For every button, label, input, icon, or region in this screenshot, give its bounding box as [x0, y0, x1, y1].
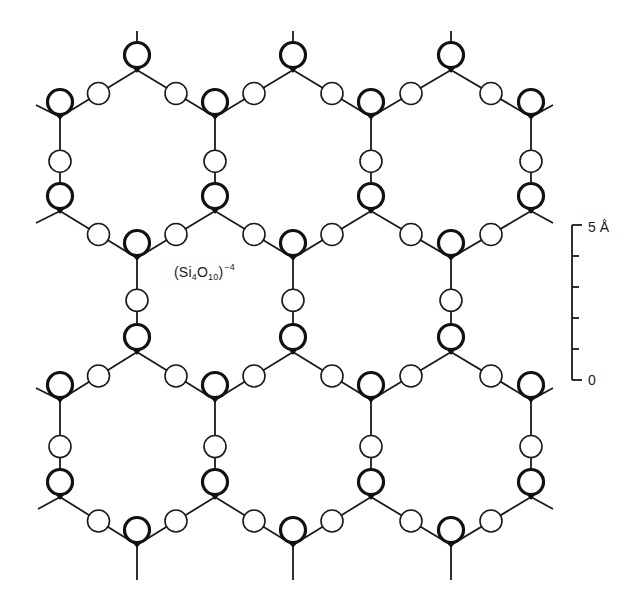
- silicon-atom: [48, 470, 73, 495]
- formula-charge: −4: [224, 262, 235, 272]
- silicon-atom: [125, 518, 150, 543]
- oxygen-atom: [400, 83, 422, 105]
- oxygen-atom: [204, 150, 226, 172]
- silicon-atom: [281, 231, 306, 256]
- silicon-atom: [439, 43, 464, 68]
- silicon-atom: [359, 90, 384, 115]
- oxygen-atom: [360, 150, 382, 172]
- silicon-atom: [203, 184, 228, 209]
- silicon-atom: [203, 90, 228, 115]
- silicate-lattice-diagram: [0, 0, 638, 608]
- silicon-atom: [359, 470, 384, 495]
- oxygen-atom: [204, 436, 226, 458]
- oxygen-atom: [243, 365, 265, 387]
- oxygen-atom: [480, 224, 502, 246]
- oxygen-atom: [282, 289, 304, 311]
- silicon-atom: [48, 184, 73, 209]
- scale-bottom-label: 0: [588, 372, 596, 388]
- oxygen-atom: [360, 436, 382, 458]
- scale-top-label: 5 Å: [588, 219, 609, 235]
- silicon-atom: [439, 325, 464, 350]
- silicon-atom: [359, 184, 384, 209]
- oxygen-atom: [321, 510, 343, 532]
- silicon-atom: [519, 184, 544, 209]
- oxygen-atom: [243, 83, 265, 105]
- scale-bar: [572, 225, 582, 380]
- oxygen-atom: [49, 436, 71, 458]
- oxygen-atom: [88, 510, 110, 532]
- oxygen-atom: [520, 436, 542, 458]
- bond: [38, 497, 60, 509]
- silicon-atom: [125, 325, 150, 350]
- oxygen-atom: [165, 83, 187, 105]
- formula-label: (Si4O10)−4: [174, 262, 235, 282]
- oxygen-atom: [165, 224, 187, 246]
- oxygen-atom: [165, 365, 187, 387]
- oxygen-atom: [520, 150, 542, 172]
- silicon-atom: [519, 90, 544, 115]
- oxygen-atom: [88, 224, 110, 246]
- bond: [36, 211, 60, 223]
- silicon-atom: [519, 373, 544, 398]
- silicon-atom: [439, 231, 464, 256]
- oxygen-atoms: [49, 83, 542, 533]
- silicon-atom: [281, 325, 306, 350]
- oxygen-atom: [126, 289, 148, 311]
- oxygen-atom: [321, 365, 343, 387]
- oxygen-atom: [400, 365, 422, 387]
- silicon-atom: [439, 518, 464, 543]
- oxygen-atom: [480, 365, 502, 387]
- silicon-atom: [203, 373, 228, 398]
- oxygen-atom: [88, 365, 110, 387]
- oxygen-atom: [49, 150, 71, 172]
- oxygen-atom: [480, 510, 502, 532]
- silicon-atom: [519, 470, 544, 495]
- formula-o-subscript: 10: [208, 272, 218, 282]
- silicon-atom: [125, 231, 150, 256]
- bond: [531, 211, 553, 223]
- oxygen-atom: [243, 224, 265, 246]
- oxygen-atom: [400, 510, 422, 532]
- silicon-atom: [48, 373, 73, 398]
- oxygen-atom: [440, 289, 462, 311]
- oxygen-atom: [400, 224, 422, 246]
- formula-prefix: (Si: [174, 264, 192, 280]
- bond: [531, 497, 553, 509]
- formula-suffix: ): [218, 264, 223, 280]
- formula-oxygen: O: [197, 264, 208, 280]
- silicon-atom: [48, 90, 73, 115]
- silicon-atom: [281, 518, 306, 543]
- oxygen-atom: [165, 510, 187, 532]
- silicon-atom: [203, 470, 228, 495]
- oxygen-atom: [321, 83, 343, 105]
- oxygen-atom: [243, 510, 265, 532]
- silicon-atom: [281, 43, 306, 68]
- oxygen-atom: [321, 224, 343, 246]
- oxygen-atom: [88, 83, 110, 105]
- oxygen-atom: [480, 83, 502, 105]
- silicon-atom: [125, 43, 150, 68]
- silicon-atom: [359, 373, 384, 398]
